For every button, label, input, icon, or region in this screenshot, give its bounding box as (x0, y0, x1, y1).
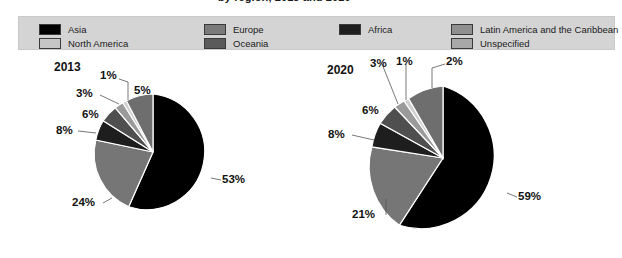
leader-line-59-2020 (507, 193, 517, 197)
leader-line-53-2013 (211, 178, 221, 180)
pie-svg-2013 (0, 0, 300, 258)
pie-svg-2020 (300, 0, 622, 258)
pie-value-2-2020: 2% (446, 55, 463, 67)
pie-value-1-2020: 1% (396, 55, 413, 67)
leader-line-1-2013 (119, 79, 128, 100)
pie-value-8-2013: 8% (56, 124, 73, 136)
leader-line-8-2020 (352, 135, 374, 140)
pie-value-8-2020: 8% (328, 128, 345, 140)
leader-line-8-2013 (78, 131, 96, 133)
leader-line-24-2013 (103, 198, 112, 203)
leader-line-3-2020 (382, 64, 398, 104)
leader-line-3-2013 (100, 95, 119, 104)
pie-chart-2020: 2020 59% 21% 8% 6 (300, 0, 622, 258)
pie-chart-2013: 2013 53% 24% 8% 6% 3 (0, 0, 300, 258)
pie-value-5-2013: 5% (134, 84, 151, 96)
pie-value-3-2013: 3% (76, 87, 93, 99)
pie-value-6-2013: 6% (82, 108, 99, 120)
leader-line-2-2020 (432, 64, 445, 88)
pie-value-59-2020: 59% (518, 190, 541, 202)
pie-value-1-2013: 1% (100, 69, 117, 81)
pie-value-21-2020: 21% (352, 208, 375, 220)
pie-value-53-2013: 53% (222, 173, 245, 185)
screenshot-root: by region, 2013 and 2020 Asia North Amer… (0, 0, 622, 258)
pie-value-3-2020: 3% (370, 57, 387, 69)
pie-value-24-2013: 24% (72, 196, 95, 208)
pie-value-6-2020: 6% (362, 104, 379, 116)
